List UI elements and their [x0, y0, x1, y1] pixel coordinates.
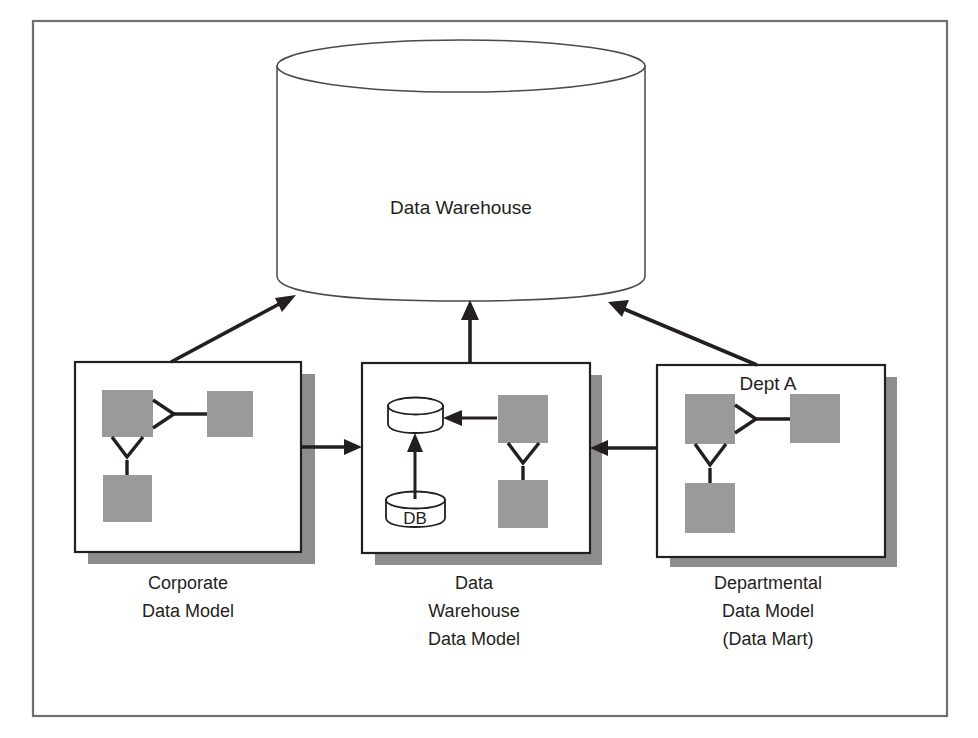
caption-line: Corporate — [148, 573, 228, 593]
cylinder-top-ellipse — [277, 40, 645, 92]
flow-departmental-to-warehouse — [608, 300, 757, 365]
entity-box-top-left — [685, 394, 735, 444]
cylinder-body — [277, 66, 645, 301]
flow-corporate-to-warehouse — [171, 295, 296, 362]
caption-corporate: Corporate Data Model — [142, 573, 234, 621]
target-database-cylinder — [388, 398, 443, 434]
caption-departmental: Departmental Data Model (Data Mart) — [714, 573, 822, 649]
diagram-canvas: Data Warehouse — [0, 0, 978, 738]
entity-box-top-right — [207, 391, 253, 437]
entity-box-bottom-right — [498, 480, 548, 528]
caption-line: Departmental — [714, 573, 822, 593]
caption-line: (Data Mart) — [722, 629, 813, 649]
dept-a-label: Dept A — [739, 373, 796, 394]
data-warehouse-cylinder: Data Warehouse — [277, 40, 645, 301]
flow-warehouse-model-to-warehouse — [461, 300, 479, 362]
entity-box-top-right — [790, 394, 840, 443]
data-warehouse-architecture-diagram: Data Warehouse — [0, 0, 978, 738]
panel-departmental-data-model[interactable]: Dept A — [657, 365, 897, 567]
source-database-label: DB — [403, 509, 427, 528]
entity-box-bottom-left — [103, 475, 152, 522]
entity-box-bottom-left — [685, 483, 735, 533]
panel-corporate-data-model[interactable] — [75, 362, 315, 564]
entity-box-top-right — [498, 395, 548, 443]
caption-warehouse-model: Data Warehouse Data Model — [428, 573, 520, 649]
caption-line: Warehouse — [428, 601, 519, 621]
caption-line: Data Model — [722, 601, 814, 621]
caption-line: Data Model — [428, 629, 520, 649]
caption-line: Data — [455, 573, 494, 593]
panel-data-warehouse-data-model[interactable]: DB — [362, 363, 602, 565]
caption-line: Data Model — [142, 601, 234, 621]
data-warehouse-label: Data Warehouse — [390, 197, 532, 218]
entity-box-top-left — [102, 390, 153, 437]
